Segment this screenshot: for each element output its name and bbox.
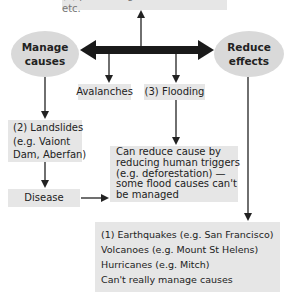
can-reduce-line: reducing human triggers	[116, 158, 232, 169]
bottom-line: Volcanoes (e.g. Mount St Helens)	[101, 242, 274, 257]
bottom-line: (1) Earthquakes (e.g. San Francisco)	[101, 227, 274, 242]
avalanches-box: Avalanches	[78, 84, 131, 100]
landslides-box: (2) Landslides (e.g. Vaiont Dam, Aberfan…	[8, 120, 82, 162]
reduce-effects-node: Reduce effects	[214, 31, 284, 77]
disease-text: Disease	[24, 191, 63, 205]
reduce-effects-line2: effects	[227, 54, 271, 68]
natural-hazards-box: (1) Earthquakes (e.g. San Francisco) Vol…	[95, 222, 280, 292]
avalanches-text: Avalanches	[76, 85, 133, 99]
landslides-line: Dam, Aberfan)	[13, 148, 77, 162]
manage-causes-node: Manage causes	[11, 31, 79, 77]
disease-box: Disease	[8, 189, 80, 207]
can-reduce-line: be managed	[116, 190, 232, 201]
can-reduce-box: Can reduce cause by reducing human trigg…	[110, 146, 238, 202]
manage-causes-line2: causes	[22, 54, 69, 68]
bottom-line: Can't really manage causes	[101, 272, 274, 287]
manage-causes-line1: Manage	[22, 40, 69, 54]
flooding-text: (3) Flooding	[145, 85, 205, 99]
bottom-line: Hurricanes (e.g. Mitch)	[101, 257, 274, 272]
landslides-line: (2) Landslides	[13, 121, 77, 135]
double-arrow	[80, 40, 214, 60]
landslides-line: (e.g. Vaiont	[13, 135, 77, 149]
reduce-effects-line1: Reduce	[227, 40, 271, 54]
flooding-box: (3) Flooding	[144, 84, 205, 100]
